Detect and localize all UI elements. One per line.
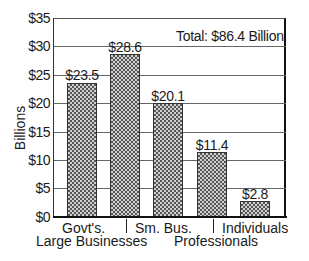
bar-large-businesses — [110, 54, 140, 217]
y-tick-10: $10 — [0, 153, 50, 167]
bar-professionals — [197, 152, 227, 217]
value-label-large-businesses: $28.6 — [95, 40, 155, 54]
value-label-govts: $23.5 — [52, 68, 112, 82]
y-tick-0: $0 — [0, 210, 50, 224]
value-label-professionals: $11.4 — [182, 138, 242, 152]
y-axis-line — [53, 18, 54, 218]
total-annotation: Total: $86.4 Billion — [176, 28, 284, 44]
y-tick-25: $25 — [0, 68, 50, 82]
y-tick-30: $30 — [0, 39, 50, 53]
bar-govts — [67, 83, 97, 217]
y-tick-35: $35 — [0, 11, 50, 25]
category-divider — [213, 219, 214, 233]
value-label-sm-bus: $20.1 — [138, 89, 198, 103]
category-label-large-businesses: Large Businesses — [36, 234, 147, 248]
bar-individuals — [240, 201, 270, 217]
bar-sm-bus — [153, 103, 183, 217]
value-label-individuals: $2.8 — [225, 187, 285, 201]
category-label-individuals: Individuals — [222, 221, 288, 235]
y-tick-5: $5 — [0, 181, 50, 195]
x-axis-baseline — [53, 216, 287, 218]
category-label-professionals: Professionals — [174, 234, 258, 248]
category-divider — [126, 219, 127, 233]
y-axis-label: Billions — [12, 103, 28, 153]
gridline-30 — [53, 46, 286, 47]
